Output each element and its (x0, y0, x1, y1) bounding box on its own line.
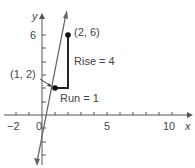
y-axis-label: y (31, 10, 39, 22)
x-axis-label: x (184, 120, 191, 132)
slope-chart: y x 6 −2 0 5 10 (1, 2) (2, 6) Rise = 4 R… (0, 0, 195, 168)
y-tick-label-6: 6 (30, 29, 36, 41)
x-tick-label-neg2: −2 (7, 120, 20, 132)
x-tick-label-5: 5 (104, 120, 110, 132)
run-label: Run = 1 (60, 92, 99, 104)
x-tick-label-0: 0 (36, 120, 42, 132)
x-tick-label-10: 10 (163, 120, 175, 132)
point-label-2-6: (2, 6) (74, 26, 100, 38)
rise-label: Rise = 4 (74, 55, 115, 67)
point-1-2 (52, 85, 58, 91)
y-ticks (42, 35, 46, 155)
x-axis (4, 112, 193, 118)
point-2-6 (65, 32, 71, 38)
point-label-1-2: (1, 2) (10, 68, 36, 80)
